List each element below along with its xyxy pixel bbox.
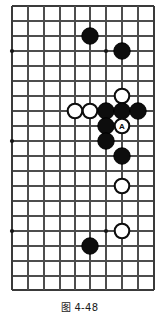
figure-caption: 图 4-48 (0, 296, 159, 316)
stone-disc (115, 89, 130, 104)
go-board[interactable]: A (0, 0, 159, 296)
stone-disc (114, 103, 130, 119)
black-stone[interactable] (130, 103, 146, 119)
white-stone[interactable] (68, 104, 83, 119)
black-stone[interactable] (82, 28, 98, 44)
go-figure: A 图 4-48 (0, 0, 159, 316)
star-point (10, 139, 14, 143)
stone-disc (68, 104, 83, 119)
stone-disc (115, 179, 130, 194)
star-point (10, 229, 14, 233)
black-stone[interactable] (114, 148, 130, 164)
black-stone[interactable] (114, 43, 130, 59)
stone-disc (82, 238, 98, 254)
stone-disc (115, 224, 130, 239)
black-stone[interactable] (82, 238, 98, 254)
stone-marker-label: A (119, 122, 125, 131)
star-point (104, 229, 108, 233)
white-stone[interactable] (115, 89, 130, 104)
star-point (10, 49, 14, 53)
stone-disc (82, 28, 98, 44)
black-stone[interactable] (98, 118, 114, 134)
stone-disc (98, 103, 114, 119)
stone-disc (98, 118, 114, 134)
stone-disc (114, 43, 130, 59)
stone-disc (98, 133, 114, 149)
white-stone[interactable]: A (115, 119, 130, 134)
stone-disc (83, 104, 98, 119)
white-stone[interactable] (115, 224, 130, 239)
star-point (104, 49, 108, 53)
white-stone[interactable] (115, 179, 130, 194)
black-stone[interactable] (98, 133, 114, 149)
white-stone[interactable] (83, 104, 98, 119)
stone-disc (114, 148, 130, 164)
board-background (0, 0, 159, 296)
black-stone[interactable] (98, 103, 114, 119)
stone-disc (130, 103, 146, 119)
go-board-container[interactable]: A (0, 0, 159, 296)
black-stone[interactable] (114, 103, 130, 119)
